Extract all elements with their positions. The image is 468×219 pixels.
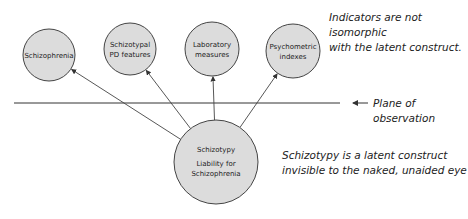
note-indicators-line-2: with the latent construct. (329, 40, 468, 55)
indicator-arrow (213, 77, 215, 120)
indicator-label: indexes (280, 53, 307, 61)
indicator-label: Schizotypal (110, 41, 150, 49)
latent-construct-circle: SchizotypyLiability forSchizophrenia (174, 120, 258, 204)
indicator-node: SchizotypalPD features (104, 23, 156, 75)
indicator-label: measures (195, 51, 230, 59)
plane-of-observation-label: Plane of observation (373, 96, 468, 126)
indicator-node: Laboratorymeasures (185, 22, 239, 76)
indicator-node: Psychometricindexes (266, 24, 320, 78)
indicator-label: Laboratory (193, 41, 231, 49)
note-latent-line-1: Schizotypy is a latent construct (282, 148, 467, 163)
indicator-arrow (72, 70, 181, 140)
indicator-circles: SchizophreniaSchizotypalPD featuresLabor… (23, 22, 320, 81)
indicator-node: Schizophrenia (23, 29, 75, 81)
latent-title: Schizotypy (197, 146, 235, 154)
latent-subtitle: Schizophrenia (191, 170, 240, 178)
indicator-arrow (240, 74, 277, 127)
indicator-arrow (146, 70, 190, 128)
plane-label-text: Plane of observation (373, 97, 435, 124)
note-indicators-line-1: Indicators are not isomorphic (329, 10, 468, 40)
indicator-label: Schizophrenia (24, 52, 73, 60)
indicator-label: PD features (110, 51, 151, 59)
latent-subtitle: Liability for (196, 160, 235, 168)
note-latent-line-2: invisible to the naked, unaided eye (282, 163, 467, 178)
indicator-label: Psychometric (270, 43, 317, 51)
arrows (72, 70, 277, 140)
note-latent: Schizotypy is a latent construct invisib… (282, 148, 467, 178)
note-indicators: Indicators are not isomorphic with the l… (329, 10, 468, 55)
